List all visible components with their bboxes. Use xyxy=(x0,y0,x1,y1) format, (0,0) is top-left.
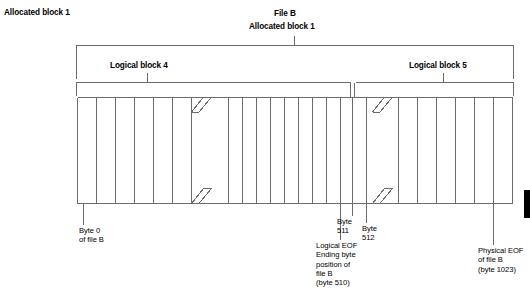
title-file-b: File B xyxy=(274,9,296,19)
break-mark-left-bottom xyxy=(192,189,212,204)
title-allocated-block-1: Allocated block 1 xyxy=(249,22,315,32)
file-allocation-diagram: Allocated block 1 File B Allocated block… xyxy=(0,0,530,300)
bracket-allocated-block-1 xyxy=(77,37,514,79)
callout-byte-512: Byte 512 xyxy=(362,224,377,243)
callout-byte-511: Byte 511 xyxy=(337,217,352,236)
title-allocated-block-1-left: Allocated block 1 xyxy=(4,8,70,18)
callout-byte-0: Byte 0 of file B xyxy=(79,226,104,245)
diagram-canvas xyxy=(0,0,530,300)
block-grid-dividers-middle xyxy=(229,98,367,204)
bracket-logical-block-5 xyxy=(357,74,514,96)
callout-logical-eof: Logical EOF Ending byte position of file… xyxy=(316,241,357,287)
callout-physical-eof: Physical EOF of file B (byte 1023) xyxy=(478,246,523,274)
block-grid-dividers-right xyxy=(399,98,494,204)
break-mark-left-top xyxy=(192,97,212,112)
bracket-logical-block-4 xyxy=(77,74,351,96)
block-grid-outline xyxy=(78,98,513,204)
break-mark-right-top xyxy=(373,97,393,112)
label-logical-block-5: Logical block 5 xyxy=(409,61,467,71)
break-mark-right-bottom xyxy=(373,189,393,204)
end-of-media-marker xyxy=(524,190,530,218)
label-logical-block-4: Logical block 4 xyxy=(110,61,168,71)
block-grid-dividers-left xyxy=(97,98,192,204)
logical-block-separator xyxy=(351,83,355,97)
